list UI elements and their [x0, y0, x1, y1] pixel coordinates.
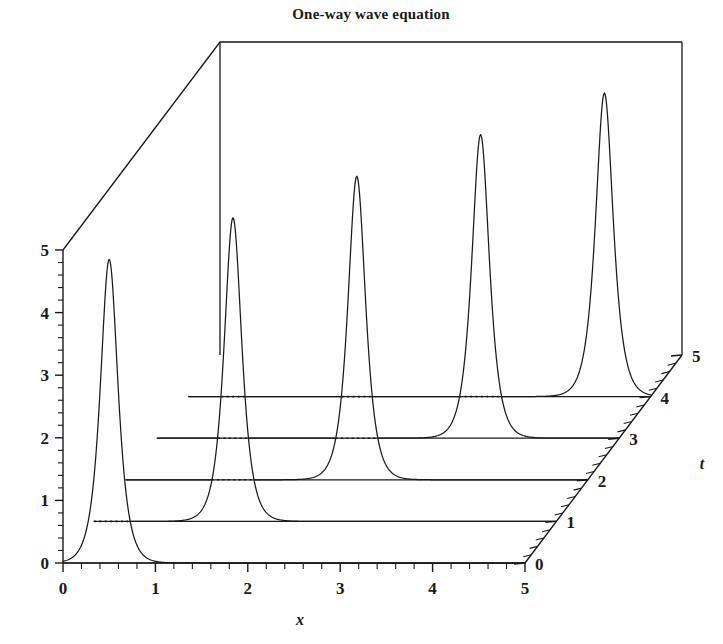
x-tick-label: 4	[428, 579, 437, 598]
x-tick-label: 1	[151, 579, 160, 598]
z-tick-label: 2	[41, 429, 50, 448]
z-tick-label: 5	[41, 241, 50, 260]
wave-slice	[189, 93, 651, 397]
chart-title: One-way wave equation	[292, 6, 450, 22]
t-tick-major	[671, 355, 682, 356]
t-tick-major	[608, 438, 619, 439]
z-tick-label: 0	[41, 554, 50, 573]
t-tick-major	[545, 521, 556, 522]
z-tick-label: 3	[41, 366, 50, 385]
x-axis: 012345	[59, 563, 530, 598]
t-axis: 012345	[514, 347, 701, 574]
waterfall-chart: One-way wave equation 012345 012345 0123…	[0, 0, 723, 644]
t-tick-major	[577, 480, 588, 481]
z-axis: 012345	[41, 241, 64, 573]
t-axis-label: t	[700, 455, 705, 472]
pulse-curve	[94, 218, 556, 522]
t-tick-major	[514, 563, 525, 564]
pulse-curve	[189, 93, 651, 397]
x-tick-label: 5	[521, 579, 530, 598]
t-tick-label: 2	[598, 472, 607, 491]
z-tick-label: 4	[41, 304, 50, 323]
wave-slice	[94, 218, 556, 522]
x-axis-label: x	[295, 611, 304, 628]
x-tick-label: 3	[336, 579, 345, 598]
x-tick-label: 0	[59, 579, 68, 598]
t-tick-label: 1	[566, 513, 575, 532]
t-tick-label: 3	[629, 430, 638, 449]
pulse-curve	[126, 176, 588, 480]
pulse-curve	[157, 135, 619, 439]
t-tick-label: 0	[535, 555, 544, 574]
t-tick-major	[640, 397, 651, 398]
wave-slice	[126, 176, 588, 480]
z-tick-label: 1	[41, 491, 50, 510]
plot-figure: One-way wave equation 012345 012345 0123…	[0, 0, 723, 644]
x-tick-label: 2	[244, 579, 253, 598]
wave-slices	[63, 93, 651, 563]
wave-slice	[157, 135, 619, 439]
t-tick-label: 5	[692, 347, 701, 366]
t-tick-label: 4	[661, 389, 670, 408]
